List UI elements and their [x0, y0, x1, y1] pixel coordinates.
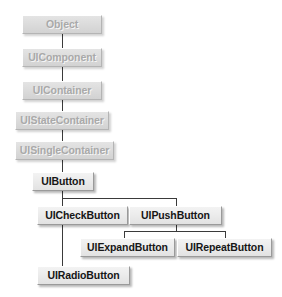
- node-uicontainer[interactable]: UIContainer: [22, 81, 102, 100]
- connector-single-to-btn: [62, 160, 63, 172]
- connector-obj-to-comp: [62, 34, 63, 48]
- node-uisinglecontainer[interactable]: UISingleContainer: [15, 141, 114, 160]
- connector-bus-to-check: [62, 198, 63, 206]
- connector-push-bus: [124, 231, 225, 232]
- node-uiexpandbutton[interactable]: UIExpandButton: [80, 238, 175, 257]
- connector-comp-to-cont: [62, 67, 63, 81]
- connector-cont-to-state: [62, 100, 63, 111]
- connector-btn-bus: [62, 198, 176, 199]
- node-label: UIContainer: [29, 85, 95, 96]
- node-uirepeatbutton[interactable]: UIRepeatButton: [177, 238, 272, 257]
- node-uistatecontainer[interactable]: UIStateContainer: [15, 111, 109, 130]
- connector-bus-to-repeat: [225, 231, 226, 238]
- node-label: UISingleContainer: [16, 145, 113, 156]
- node-label: UICheckButton: [41, 210, 124, 221]
- node-uicomponent[interactable]: UIComponent: [22, 48, 102, 67]
- node-label: UIStateContainer: [16, 115, 108, 126]
- connector-bus-to-expand: [124, 231, 125, 238]
- connector-btn-stem: [62, 191, 63, 198]
- node-uicheckbutton[interactable]: UICheckButton: [37, 206, 128, 225]
- node-object[interactable]: Object: [22, 15, 102, 34]
- node-label: UIRepeatButton: [182, 242, 268, 253]
- node-uibutton[interactable]: UIButton: [32, 172, 94, 191]
- node-uiradiobutton[interactable]: UIRadioButton: [37, 266, 130, 285]
- node-label: UIPushButton: [137, 210, 214, 221]
- node-label: UIButton: [37, 176, 89, 187]
- node-label: UIComponent: [24, 52, 100, 63]
- connector-bus-to-push: [176, 198, 177, 206]
- node-uipushbutton[interactable]: UIPushButton: [129, 206, 222, 225]
- node-label: UIRadioButton: [43, 270, 123, 281]
- node-label: UIExpandButton: [83, 242, 172, 253]
- connector-state-to-single: [62, 130, 63, 141]
- class-hierarchy-diagram: ObjectUIComponentUIContainerUIStateConta…: [0, 0, 282, 297]
- connector-check-to-radio: [62, 225, 63, 266]
- node-label: Object: [42, 19, 82, 30]
